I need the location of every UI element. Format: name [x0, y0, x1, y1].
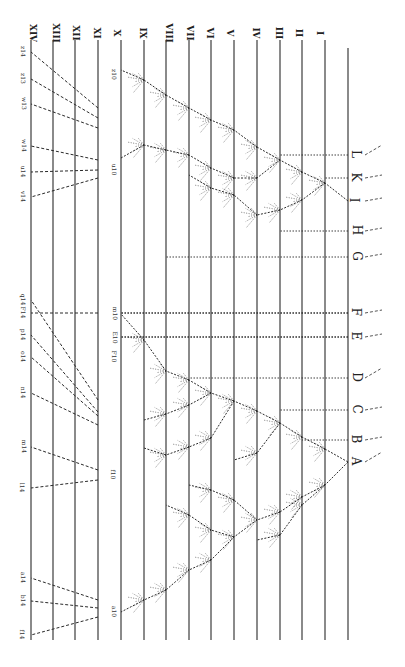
tip-label: p14	[20, 329, 27, 340]
tip-label: l14	[19, 483, 26, 493]
generation-label: XI	[92, 27, 102, 38]
tip-label: z10	[111, 69, 118, 80]
species-label: G	[350, 251, 364, 261]
generation-label: III	[274, 27, 284, 40]
generation-label: IX	[138, 27, 148, 38]
tip-label: o14	[20, 351, 27, 362]
tip-label: a14	[20, 572, 27, 583]
tip-label: w13	[21, 97, 28, 110]
generation-label: VIII	[164, 23, 174, 43]
species-label: C	[350, 404, 364, 413]
generation-label: II	[294, 29, 304, 37]
tip-label: m14	[21, 440, 28, 453]
tip-label: q14	[20, 294, 27, 305]
species-label: L	[349, 150, 363, 158]
species-dotted-lines	[121, 145, 382, 462]
tip-label: a10	[111, 606, 118, 617]
tip-label: w14	[21, 139, 28, 152]
tip-label: z14	[20, 46, 27, 57]
tip-label: f10	[110, 470, 117, 480]
generation-label: X	[112, 30, 122, 37]
generation-label: XIV	[28, 24, 38, 42]
generation-label: IV	[251, 27, 261, 38]
species-label: H	[350, 225, 364, 235]
tip-label: m10	[112, 307, 119, 320]
tip-label: n14	[20, 387, 27, 399]
species-label: K	[349, 173, 363, 182]
generation-lines	[31, 40, 348, 640]
tip-label: b14	[20, 595, 27, 606]
species-label: I	[347, 198, 361, 203]
diagram-canvas	[0, 0, 405, 667]
species-label: E	[349, 332, 363, 341]
generation-label: VII	[185, 25, 195, 40]
generation-label: V	[225, 30, 235, 37]
species-label: B	[349, 435, 363, 444]
species-label: F	[349, 308, 363, 316]
species-label: A	[349, 457, 363, 466]
generation-label: XIII	[51, 23, 61, 43]
tip-label: u14	[20, 166, 27, 178]
tip-label: F10	[111, 351, 118, 363]
tip-label: u10	[111, 164, 118, 176]
tip-label: v14	[20, 191, 27, 202]
tip-label: E10	[112, 331, 119, 343]
tip-label: z13	[20, 73, 27, 84]
generation-label: VI	[205, 27, 215, 38]
generation-label: XII	[71, 25, 81, 40]
generation-label: I	[315, 31, 325, 35]
tip-label: F14	[20, 307, 27, 319]
species-label: D	[350, 372, 364, 382]
tip-label: f14	[19, 630, 26, 640]
